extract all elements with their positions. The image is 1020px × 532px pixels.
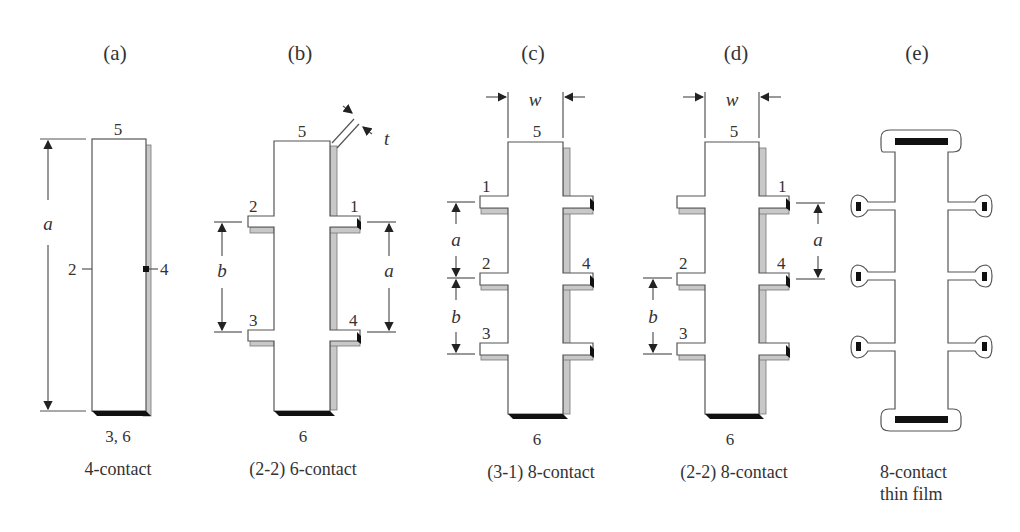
contact-3-label: 3 [249, 311, 258, 330]
contact-5-label: 5 [114, 120, 123, 139]
panel-b-caption: (2-2) 6-contact [249, 459, 356, 480]
arm-shade [250, 227, 274, 233]
panel-d-title: (d) [724, 41, 749, 65]
arm-shade [563, 208, 593, 214]
contact-5-label: 5 [298, 122, 307, 141]
contact-2-label: 2 [679, 254, 688, 273]
dim-t-line [332, 119, 354, 143]
panel-c-title: (c) [521, 41, 544, 65]
contact-3-label: 3 [482, 324, 491, 343]
dim-b-label: b [217, 260, 227, 281]
thin-film-outline [851, 130, 992, 431]
contact-1-label: 1 [778, 177, 787, 196]
dim-a-label: a [384, 260, 394, 281]
hall-bar-body [480, 142, 593, 414]
contact-2-label: 2 [482, 254, 491, 273]
contact-6-label: 6 [299, 427, 308, 446]
panel-b: (b) 5 2 1 3 4 t b a 6 (2-2) 6-conta [214, 41, 396, 480]
dim-b-label: b [648, 306, 658, 327]
hall-bar-body [248, 141, 360, 411]
contact-2-label: 2 [68, 260, 77, 279]
arm-shade [330, 227, 360, 233]
panel-e-title: (e) [905, 41, 928, 65]
contact-2-label: 2 [249, 197, 258, 216]
dim-t-arrow [363, 127, 372, 134]
dim-t-label: t [384, 128, 390, 149]
contact-pad [982, 342, 987, 351]
bottom-contact-pad [895, 416, 948, 423]
hall-bar-body [677, 142, 789, 414]
panel-a-caption: 4-contact [85, 459, 152, 479]
dim-a-label: a [451, 229, 461, 250]
dim-a-label: a [813, 229, 823, 250]
contact-3-label: 3 [679, 324, 688, 343]
contact-4-label: 4 [160, 260, 169, 279]
figure-hall-bar-geometries: (a) 5 2 4 a 3, 6 4-contact (b) 5 2 1 [0, 0, 1020, 532]
contact-1-label: 1 [350, 197, 359, 216]
contact-5-label: 5 [533, 122, 542, 141]
panel-e: (e) 8-contact thin film [851, 41, 992, 504]
contact-6-label: 6 [533, 430, 542, 449]
panel-e-caption: 8-contact [880, 462, 947, 482]
contact-4-pad [143, 266, 149, 272]
bottom-contact [274, 411, 335, 416]
panel-a-title: (a) [103, 41, 126, 65]
panel-b-title: (b) [288, 41, 313, 65]
panel-d-caption: (2-2) 8-contact [680, 462, 787, 483]
contact-4-label: 4 [582, 254, 591, 273]
dim-b-label: b [451, 306, 461, 327]
contact-pad [982, 202, 987, 211]
contact-3-6-label: 3, 6 [105, 427, 131, 446]
contact-1-label: 1 [482, 177, 491, 196]
dim-w-label: w [529, 89, 542, 110]
panel-a: (a) 5 2 4 a 3, 6 4-contact [40, 41, 169, 479]
top-contact-pad [895, 138, 948, 145]
contact-6-label: 6 [726, 430, 735, 449]
dim-a-label: a [43, 213, 53, 234]
contact-4-label: 4 [777, 254, 786, 273]
bottom-contact [705, 414, 764, 419]
bar-body [92, 139, 146, 411]
panel-c-caption: (3-1) 8-contact [487, 462, 594, 483]
arm-shade [481, 208, 509, 214]
contact-pad [856, 342, 861, 351]
dim-w-label: w [726, 89, 739, 110]
arm-shade [679, 208, 707, 214]
contact-pad [982, 272, 987, 281]
bottom-contact [508, 414, 568, 419]
arm-shade [759, 208, 789, 214]
bottom-contact [92, 411, 151, 416]
bar-side-shade [330, 146, 337, 410]
panel-c: (c) w 5 1 2 3 4 a b 6 (3-1) 8-conta [447, 41, 595, 483]
contact-5-label: 5 [730, 122, 739, 141]
contact-pad [856, 272, 861, 281]
contact-4-label: 4 [349, 311, 358, 330]
panel-e-caption-line2: thin film [880, 484, 943, 504]
diagram-canvas: (a) 5 2 4 a 3, 6 4-contact (b) 5 2 1 [0, 0, 1020, 532]
dim-t-line [337, 124, 359, 148]
contact-pad [856, 202, 861, 211]
dim-t-arrow [343, 106, 352, 113]
panel-d: (d) w 5 1 2 3 4 a b 6 (2- [643, 41, 825, 483]
